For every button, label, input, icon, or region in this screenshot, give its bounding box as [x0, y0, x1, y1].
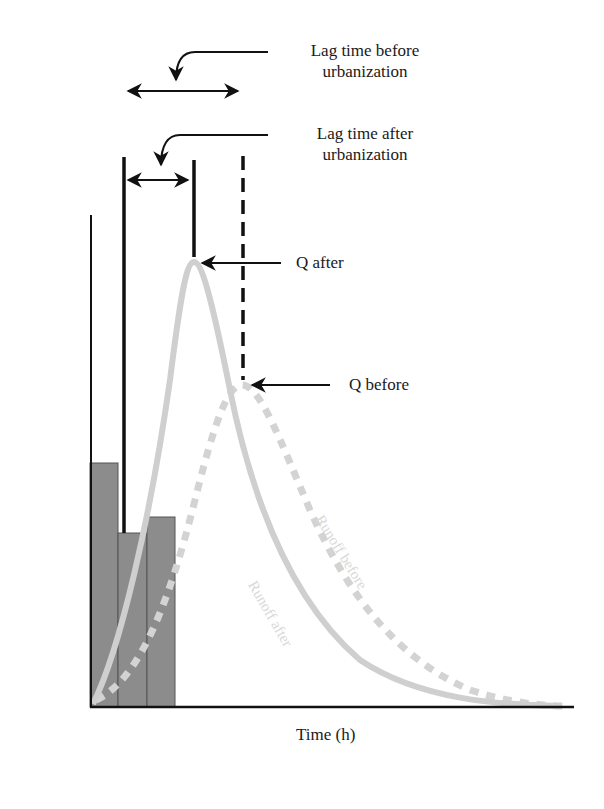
lag-before-label: Lag time before urbanization: [280, 40, 450, 82]
lag-after-label-line1: Lag time after: [280, 123, 450, 144]
lag-before-label-line1: Lag time before: [280, 40, 450, 61]
lag-after-label-line2: urbanization: [280, 144, 450, 165]
rainfall-bar-3: [147, 517, 175, 707]
lag-after-label: Lag time after urbanization: [280, 123, 450, 165]
lag-before-leader-arrow: [176, 52, 268, 80]
lag-after-leader-arrow: [161, 135, 268, 165]
q-after-label: Q after: [296, 252, 344, 273]
lag-before-label-line2: urbanization: [280, 61, 450, 82]
x-axis-label: Time (h): [296, 724, 355, 745]
hydrograph-diagram: [0, 0, 604, 809]
q-before-label: Q before: [349, 374, 409, 395]
